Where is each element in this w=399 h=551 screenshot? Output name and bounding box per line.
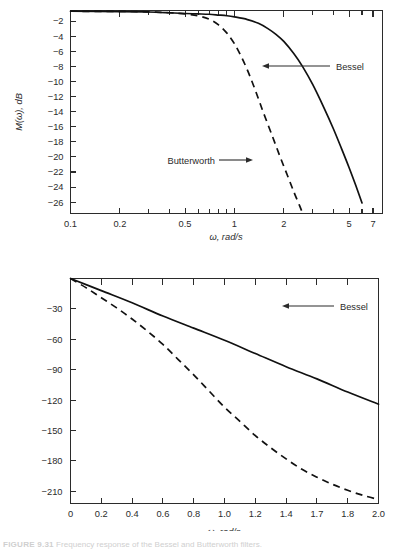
figure-caption-label: FIGURE 9.31: [3, 540, 54, 549]
phase-x-tick-label: 0: [68, 509, 73, 519]
magnitude-butterworth-arrowhead: [246, 157, 253, 162]
phase-annotations: BesselButterworth: [250, 302, 368, 532]
phase-curve-butterworth: [71, 279, 379, 500]
magnitude-x-tick-label: 7: [370, 219, 375, 229]
magnitude-y-tick-label: −6: [53, 47, 64, 57]
phase-y-tick-label: −180: [42, 456, 63, 466]
phase-y-tick-label: −120: [42, 396, 63, 406]
phase-y-tick-label: −210: [42, 487, 63, 497]
phase-x-tick-label: 1.4: [280, 509, 293, 519]
magnitude-bessel-arrowhead: [262, 63, 269, 68]
magnitude-butterworth-label: Butterworth: [167, 156, 215, 166]
magnitude-y-tick-label: −18: [48, 137, 64, 147]
magnitude-x-tick-label: 1: [232, 219, 237, 229]
magnitude-y-tick-label: −2: [53, 16, 64, 26]
phase-x-axis-title: ω, rad/s: [207, 527, 240, 531]
magnitude-y-tick-label: −4: [53, 32, 64, 42]
magnitude-y-tick-label: −16: [48, 122, 64, 132]
phase-plot-svg: 00.20.40.60.81.01.21.41.71.82.0−30−60−90…: [0, 250, 399, 531]
phase-plot-frame: [71, 279, 379, 504]
magnitude-plot-svg: 0.10.20.51257−2−4−6−8−10−12−14−16−18−20−…: [0, 0, 399, 250]
magnitude-x-tick-label: 0.2: [113, 219, 126, 229]
phase-x-tick-label: 2.0: [372, 509, 385, 519]
magnitude-y-axis-title: M(ω), dB: [14, 93, 24, 131]
phase-x-tick-label: 0.2: [95, 509, 108, 519]
magnitude-x-tick-label: 2: [281, 219, 286, 229]
phase-y-tick-label: −150: [42, 426, 63, 436]
phase-axes: [71, 279, 379, 504]
magnitude-x-tick-label: 0.1: [64, 219, 77, 229]
magnitude-y-tick-label: −8: [53, 62, 64, 72]
phase-x-tick-label: 1.7: [310, 509, 323, 519]
magnitude-y-tick-label: −14: [48, 107, 64, 117]
phase-x-tick-label: 0.6: [156, 509, 169, 519]
magnitude-plot-frame: [71, 11, 383, 214]
magnitude-y-tick-label: −12: [48, 92, 64, 102]
phase-y-tick-label: −30: [47, 304, 63, 314]
phase-x-tick-label: 0.8: [187, 509, 200, 519]
phase-bessel-arrowhead: [282, 303, 289, 308]
magnitude-response-chart: 0.10.20.51257−2−4−6−8−10−12−14−16−18−20−…: [0, 0, 399, 250]
magnitude-y-tick-label: −20: [48, 152, 64, 162]
phase-y-tick-label: −60: [47, 335, 63, 345]
phase-ticks: [71, 279, 379, 504]
magnitude-curve-bessel: [71, 11, 363, 203]
magnitude-annotations: BesselButterworth: [167, 62, 363, 166]
phase-response-chart: 00.20.40.60.81.01.21.41.71.82.0−30−60−90…: [0, 250, 399, 531]
figure-root: 0.10.20.51257−2−4−6−8−10−12−14−16−18−20−…: [0, 0, 399, 551]
magnitude-x-axis-title: ω, rad/s: [209, 232, 242, 242]
magnitude-y-tick-label: −22: [48, 167, 64, 177]
phase-curve-bessel: [71, 279, 379, 405]
magnitude-bessel-label: Bessel: [336, 62, 364, 72]
magnitude-curve-butterworth: [71, 11, 303, 213]
figure-caption: FIGURE 9.31 Frequency response of the Be…: [3, 540, 396, 550]
phase-y-tick-label: −90: [47, 365, 63, 375]
phase-x-tick-label: 0.4: [126, 509, 139, 519]
magnitude-curves: [71, 11, 363, 213]
phase-bessel-label: Bessel: [340, 302, 368, 312]
magnitude-y-tick-label: −10: [48, 77, 64, 87]
magnitude-ticks: [71, 11, 373, 214]
figure-caption-text: Frequency response of the Bessel and But…: [56, 540, 262, 549]
magnitude-y-tick-label: −24: [48, 182, 64, 192]
phase-x-tick-label: 1.2: [249, 509, 262, 519]
magnitude-axes: [71, 11, 383, 214]
magnitude-tick-labels: 0.10.20.51257−2−4−6−8−10−12−14−16−18−20−…: [48, 16, 376, 228]
phase-x-tick-label: 1.8: [341, 509, 354, 519]
magnitude-x-tick-label: 0.5: [179, 219, 192, 229]
magnitude-y-tick-label: −26: [48, 198, 64, 208]
magnitude-x-tick-label: 5: [346, 219, 351, 229]
phase-curves: [71, 279, 379, 500]
phase-x-tick-label: 1.0: [218, 509, 231, 519]
